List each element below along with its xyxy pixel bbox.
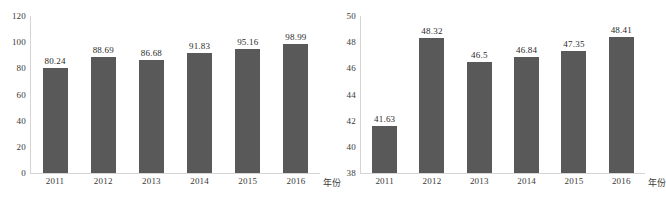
y-tick-label: 120 <box>0 11 26 21</box>
bar-value-label: 91.83 <box>189 41 210 51</box>
x-tick-label: 2011 <box>361 176 408 186</box>
bar-slot: 80.24 <box>31 16 79 173</box>
bar-slot: 47.35 <box>550 16 597 173</box>
bar[interactable]: 48.32 <box>419 38 444 173</box>
x-tick-label: 2015 <box>224 176 272 186</box>
x-tick-label: 2012 <box>79 176 127 186</box>
chart-panel-right: 38404244464850 41.6348.3246.546.8447.354… <box>330 0 659 204</box>
bar-value-label: 48.32 <box>421 26 442 36</box>
y-tick-label: 100 <box>0 37 26 47</box>
bar-value-label: 88.69 <box>93 45 114 55</box>
bar-value-label: 46.84 <box>516 45 537 55</box>
bar-slot: 46.84 <box>503 16 550 173</box>
x-tick-label: 2013 <box>456 176 503 186</box>
bar[interactable]: 95.16 <box>235 49 260 174</box>
x-tick-label: 2016 <box>598 176 645 186</box>
y-tick-label: 40 <box>330 142 356 152</box>
x-axis-line-left <box>30 173 320 174</box>
y-tick-label: 42 <box>330 116 356 126</box>
y-tick-label: 40 <box>0 116 26 126</box>
x-tick-label: 2014 <box>176 176 224 186</box>
x-tick-label: 2012 <box>408 176 455 186</box>
x-axis-line-right <box>360 173 645 174</box>
bar-value-label: 48.41 <box>611 25 632 35</box>
bar-slot: 98.99 <box>272 16 320 173</box>
x-tick-label: 2014 <box>503 176 550 186</box>
x-tick-label: 2011 <box>31 176 79 186</box>
y-tick-label: 20 <box>0 142 26 152</box>
y-tick-label: 60 <box>0 90 26 100</box>
bar[interactable]: 80.24 <box>43 68 68 173</box>
x-tick-label: 2015 <box>550 176 597 186</box>
bar[interactable]: 48.41 <box>609 37 634 173</box>
bar-value-label: 98.99 <box>285 32 306 42</box>
plot-area-right: 41.6348.3246.546.8447.3548.41 <box>361 16 645 173</box>
bar[interactable]: 46.84 <box>514 57 539 173</box>
bar[interactable]: 47.35 <box>561 51 586 173</box>
bar[interactable]: 88.69 <box>91 57 116 173</box>
y-tick-label: 38 <box>330 168 356 178</box>
x-tick-labels-left: 201120122013201420152016 <box>31 176 320 186</box>
bar-slot: 88.69 <box>79 16 127 173</box>
plot-area-left: 80.2488.6986.6891.8395.1698.99 <box>31 16 320 173</box>
bar[interactable]: 91.83 <box>187 53 212 173</box>
x-tick-labels-right: 201120122013201420152016 <box>361 176 645 186</box>
bar-slot: 41.63 <box>361 16 408 173</box>
y-tick-label: 46 <box>330 63 356 73</box>
x-tick-label: 2016 <box>272 176 320 186</box>
y-tick-label: 80 <box>0 63 26 73</box>
y-tick-label: 44 <box>330 90 356 100</box>
bar-value-label: 47.35 <box>563 39 584 49</box>
bar[interactable]: 98.99 <box>283 44 308 174</box>
bar-slot: 46.5 <box>456 16 503 173</box>
bar-value-label: 95.16 <box>237 37 258 47</box>
bar-value-label: 86.68 <box>141 48 162 58</box>
bar[interactable]: 86.68 <box>139 60 164 173</box>
y-tick-label: 0 <box>0 168 26 178</box>
bar[interactable]: 46.5 <box>467 62 492 173</box>
y-tick-label: 48 <box>330 37 356 47</box>
chart-panel-left: 020406080100120 80.2488.6986.6891.8395.1… <box>0 0 330 204</box>
bar-value-label: 80.24 <box>44 56 65 66</box>
bar-slot: 48.41 <box>598 16 645 173</box>
bar-slot: 95.16 <box>224 16 272 173</box>
bar[interactable]: 41.63 <box>372 126 397 173</box>
bar-value-label: 41.63 <box>374 114 395 124</box>
x-tick-label: 2013 <box>127 176 175 186</box>
bar-slot: 48.32 <box>408 16 455 173</box>
bar-slot: 86.68 <box>127 16 175 173</box>
bar-value-label: 46.5 <box>471 50 488 60</box>
bar-slot: 91.83 <box>176 16 224 173</box>
x-axis-title-right: 年份 <box>648 176 666 189</box>
y-tick-label: 50 <box>330 11 356 21</box>
